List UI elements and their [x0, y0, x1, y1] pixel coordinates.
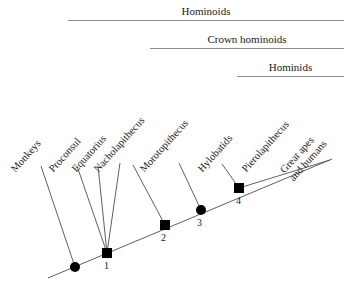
clade-label-crown-hominoids: Crown hominoids — [150, 32, 344, 46]
clade-rule-hominoids — [68, 20, 344, 21]
node-number-node-1: 1 — [104, 261, 109, 271]
branch-line-nacholapithecus — [107, 163, 120, 253]
clade-rule-crown-hominoids — [150, 48, 344, 49]
branch-line-morotopithecus — [133, 165, 165, 225]
node-markers-group — [70, 183, 244, 272]
tree-node-marker-node-4 — [234, 183, 244, 193]
clade-rule-hominids — [237, 76, 344, 77]
tree-node-marker-node-root-split — [70, 262, 80, 272]
clade-bracket-hominids: Hominids — [237, 60, 344, 86]
node-number-node-2: 2 — [161, 233, 166, 243]
clade-bracket-crown-hominoids: Crown hominoids — [150, 32, 344, 58]
tree-node-marker-node-3 — [196, 205, 206, 215]
node-number-node-3: 3 — [197, 218, 202, 228]
node-number-node-4: 4 — [236, 196, 241, 206]
clade-bracket-hominoids: Hominoids — [68, 4, 344, 30]
tree-node-marker-node-2 — [160, 220, 170, 230]
clade-label-hominoids: Hominoids — [68, 4, 344, 18]
tree-node-marker-node-1 — [102, 248, 112, 258]
phylogenetic-tree-figure: HominoidsCrown hominoidsHominids Monkeys… — [0, 0, 359, 285]
branch-line-hylobatids — [179, 163, 201, 210]
branch-line-monkeys — [41, 166, 75, 267]
clade-label-hominids: Hominids — [237, 60, 344, 74]
